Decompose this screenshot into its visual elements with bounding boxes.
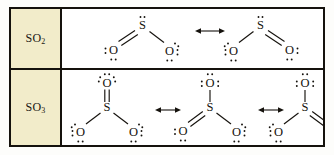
oxygen-lone-pair-dot bbox=[269, 126, 271, 128]
oxygen-lone-pair-dot bbox=[166, 60, 168, 62]
so3-resonance-1: O S bbox=[71, 73, 144, 142]
resonance-arrow-head-left bbox=[155, 107, 161, 112]
row-label-so3-text: SO bbox=[26, 100, 42, 114]
atom-oxygen: O bbox=[274, 125, 283, 139]
so3-structures-svg: O S bbox=[62, 70, 323, 145]
oxygen-lone-pair-dot bbox=[238, 141, 240, 143]
oxygen-lone-pair-dot bbox=[306, 73, 308, 75]
oxygen-lone-pair-dot bbox=[312, 81, 314, 83]
row-label-so2: SO2 bbox=[26, 31, 46, 46]
resonance-table: SO2 S O bbox=[9, 7, 325, 147]
oxygen-lone-pair-dot bbox=[224, 45, 226, 47]
oxygen-lone-pair-dot bbox=[211, 73, 213, 75]
oxygen-lone-pair-dot bbox=[74, 124, 76, 126]
oxygen-lone-pair-dot bbox=[141, 130, 143, 132]
oxygen-lone-pair-dot bbox=[135, 141, 137, 143]
bond-double-line bbox=[265, 34, 282, 45]
oxygen-lone-pair-dot bbox=[82, 141, 84, 143]
bond-double-line bbox=[119, 31, 136, 42]
atom-oxygen: O bbox=[229, 44, 238, 58]
row-label-so2-text: SO bbox=[26, 31, 42, 45]
oxygen-lone-pair-dot bbox=[114, 81, 116, 83]
bond-single-line bbox=[114, 113, 129, 124]
atom-oxygen: O bbox=[205, 76, 214, 90]
resonance-arrow bbox=[195, 28, 225, 33]
oxygen-lone-pair-dot bbox=[104, 73, 106, 75]
oxygen-lone-pair-dot bbox=[241, 124, 243, 126]
oxygen-lone-pair-dot bbox=[99, 76, 101, 78]
atom-oxygen: O bbox=[109, 43, 118, 57]
oxygen-lone-pair-dot bbox=[302, 73, 304, 75]
so3-resonance-3: O S bbox=[269, 73, 323, 142]
oxygen-lone-pair-dot bbox=[108, 73, 110, 75]
so3-resonance-2: O S bbox=[174, 73, 246, 142]
oxygen-lone-pair-dot bbox=[227, 43, 229, 45]
bond-double-line bbox=[188, 112, 203, 123]
atom-sulfur: S bbox=[139, 18, 146, 32]
oxygen-lone-pair-dot bbox=[105, 48, 107, 50]
so2-resonance-1: S O O bbox=[105, 16, 180, 61]
bond-double-line bbox=[310, 116, 323, 127]
oxygen-lone-pair-dot bbox=[217, 85, 219, 87]
oxygen-lone-pair-dot bbox=[280, 141, 282, 143]
figure-root: SO2 S O bbox=[0, 0, 334, 155]
oxygen-lone-pair-dot bbox=[217, 81, 219, 83]
resonance-arrow-head-left bbox=[258, 107, 264, 112]
oxygen-lone-pair-dot bbox=[98, 81, 100, 83]
row-label-cell-so2: SO2 bbox=[11, 9, 62, 68]
atom-sulfur: S bbox=[257, 18, 264, 32]
resonance-arrow-head-left bbox=[195, 28, 201, 33]
oxygen-lone-pair-dot bbox=[201, 81, 203, 83]
atom-oxygen: O bbox=[300, 76, 309, 90]
oxygen-lone-pair-dot bbox=[230, 60, 232, 62]
so2-structures-svg: S O O bbox=[62, 9, 323, 68]
atom-sulfur: S bbox=[207, 100, 214, 114]
oxygen-lone-pair-dot bbox=[291, 59, 293, 61]
bond-double-line bbox=[121, 34, 138, 45]
oxygen-lone-pair-dot bbox=[297, 48, 299, 50]
oxygen-lone-pair-dot bbox=[115, 59, 117, 61]
oxygen-lone-pair-dot bbox=[180, 140, 182, 142]
oxygen-lone-pair-dot bbox=[244, 126, 246, 128]
oxygen-lone-pair-dot bbox=[296, 85, 298, 87]
structures-cell-so2: S O O bbox=[62, 9, 323, 68]
oxygen-lone-pair-dot bbox=[72, 135, 74, 137]
oxygen-lone-pair-dot bbox=[174, 129, 176, 131]
oxygen-lone-pair-dot bbox=[233, 141, 235, 143]
oxygen-lone-pair-dot bbox=[296, 81, 298, 83]
bond-double-line bbox=[190, 116, 205, 127]
atom-oxygen: O bbox=[285, 43, 294, 57]
oxygen-lone-pair-dot bbox=[275, 141, 277, 143]
row-label-cell-so3: SO3 bbox=[11, 70, 62, 145]
table-row: SO2 S O bbox=[11, 9, 323, 70]
oxygen-lone-pair-dot bbox=[171, 60, 173, 62]
oxygen-lone-pair-dot bbox=[177, 54, 179, 56]
atom-oxygen: O bbox=[76, 125, 85, 139]
oxygen-lone-pair-dot bbox=[141, 135, 143, 137]
bond-single-line bbox=[239, 32, 254, 43]
row-label-so3: SO3 bbox=[26, 100, 46, 115]
oxygen-lone-pair-dot bbox=[225, 49, 227, 51]
bond-double-line bbox=[268, 31, 285, 42]
atom-oxygen: O bbox=[102, 76, 111, 90]
oxygen-lone-pair-dot bbox=[77, 141, 79, 143]
so2-resonance-2: S O bbox=[224, 16, 299, 61]
atom-oxygen: O bbox=[178, 124, 187, 138]
oxygen-lone-pair-dot bbox=[225, 54, 227, 56]
row-label-so3-subscript: 3 bbox=[41, 106, 45, 115]
resonance-arrow-head-right bbox=[278, 107, 284, 112]
resonance-arrow-head-right bbox=[219, 28, 225, 33]
atom-oxygen: O bbox=[165, 44, 174, 58]
oxygen-lone-pair-dot bbox=[244, 135, 246, 137]
oxygen-lone-pair-dot bbox=[270, 135, 272, 137]
resonance-arrow bbox=[155, 107, 181, 112]
oxygen-lone-pair-dot bbox=[71, 126, 73, 128]
oxygen-lone-pair-dot bbox=[105, 52, 107, 54]
oxygen-lone-pair-dot bbox=[272, 124, 274, 126]
bond-single-line bbox=[86, 113, 101, 124]
atom-sulfur: S bbox=[302, 100, 309, 114]
oxygen-lone-pair-dot bbox=[201, 85, 203, 87]
oxygen-lone-pair-dot bbox=[286, 59, 288, 61]
atom-oxygen: O bbox=[232, 125, 241, 139]
oxygen-lone-pair-dot bbox=[244, 130, 246, 132]
